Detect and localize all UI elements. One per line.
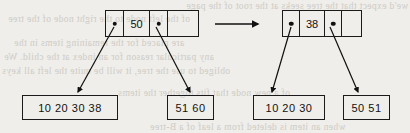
after-root-key-label: 38: [306, 18, 318, 30]
before-left-leaf-values: 10 20 30 38: [38, 102, 102, 114]
before-right-leaf: 51 60: [167, 95, 214, 120]
after-right-leaf: 50 51: [343, 95, 390, 120]
after-root-key: 38: [300, 11, 325, 36]
after-root-pointer-left[interactable]: [283, 11, 300, 36]
after-left-leaf: 10 20 30: [253, 95, 325, 120]
before-right-leaf-values: 51 60: [175, 102, 205, 114]
after-root-pointer-right[interactable]: [325, 11, 342, 36]
before-root-pointer-right[interactable]: [150, 11, 168, 36]
bleed-text-line: are placed for the remaining items in th…: [14, 38, 184, 48]
after-right-leaf-values: 50 51: [351, 102, 381, 114]
after-root-empty-slot: [342, 11, 361, 36]
btree-split-figure: we'd expect that the tree seeks at the r…: [0, 0, 410, 133]
bleed-text-line: any particular reason for an index at th…: [4, 52, 214, 62]
before-root-key-label: 50: [130, 18, 142, 30]
before-root-key: 50: [124, 11, 150, 36]
bleed-text-line: obliged to use the tree, it will be quit…: [2, 66, 230, 76]
bleed-text-line: when an item is deleted from a leaf of a…: [150, 122, 346, 132]
after-root-node: 38: [282, 10, 362, 37]
before-root-pointer-left[interactable]: [106, 11, 124, 36]
before-root-empty-slot: [168, 11, 198, 36]
before-root-node: 50: [105, 10, 199, 37]
after-left-leaf-values: 10 20 30: [266, 102, 313, 114]
before-left-leaf: 10 20 30 38: [22, 95, 118, 120]
